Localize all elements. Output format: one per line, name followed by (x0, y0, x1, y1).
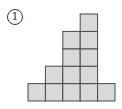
square-cell (80, 84, 97, 101)
square-cell (45, 84, 62, 101)
square-stack-figure (0, 0, 122, 109)
square-cell (63, 31, 80, 48)
square-cell (63, 49, 80, 66)
square-cell (80, 31, 97, 48)
square-cell (80, 14, 97, 31)
square-cell (63, 84, 80, 101)
square-cell (98, 84, 115, 101)
square-cell (80, 49, 97, 66)
square-cell (28, 84, 45, 101)
square-cell (45, 66, 62, 83)
square-cell (63, 66, 80, 83)
square-cell (80, 66, 97, 83)
